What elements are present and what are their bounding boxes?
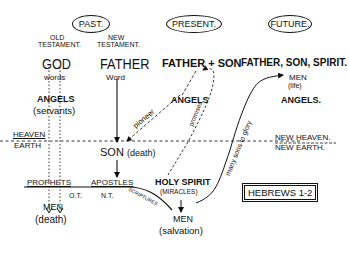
ot-label: O.T. bbox=[69, 192, 82, 199]
men-death-label: MEN bbox=[43, 203, 63, 212]
earth-label: EARTH bbox=[14, 142, 41, 150]
trinity-label: FATHER, SON, SPIRIT. bbox=[241, 58, 347, 68]
era-present-label: PRESENT. bbox=[166, 15, 222, 33]
new-testament-line2: TESTAMENT. bbox=[97, 41, 140, 48]
salvation-label: (salvation) bbox=[159, 226, 203, 236]
prophets-label: PROPHETS bbox=[27, 179, 71, 187]
father-son-label: FATHER + SON bbox=[162, 58, 242, 69]
son-to-angels-line bbox=[181, 71, 196, 97]
holy-spirit-label: HOLY SPIRIT bbox=[155, 178, 211, 187]
son-label: SON (death) bbox=[100, 147, 155, 158]
words-label: words bbox=[44, 74, 65, 82]
servants-label: (servants) bbox=[33, 106, 75, 116]
era-past-label: PAST. bbox=[72, 15, 110, 33]
son-text: SON bbox=[100, 146, 124, 158]
angels-past-label: ANGELS bbox=[37, 95, 75, 104]
heaven-label: HEAVEN bbox=[13, 131, 45, 139]
nt-label: N.T. bbox=[101, 192, 113, 199]
old-testament-line1: OLD bbox=[50, 34, 64, 41]
hebrews-diagram: PAST. PRESENT. FUTURE. OLD TESTAMENT. NE… bbox=[0, 0, 349, 255]
miracles-label: (MIRACLES) bbox=[160, 189, 198, 196]
apostles-label: APOSTLES bbox=[91, 179, 133, 187]
word-label: Word bbox=[106, 74, 125, 82]
son-death-text: (death) bbox=[127, 148, 156, 158]
death-label: (death) bbox=[35, 215, 67, 225]
father-label: FATHER bbox=[100, 56, 149, 71]
reference-box: HEBREWS 1-2 bbox=[244, 185, 316, 200]
new-earth-label: NEW EARTH. bbox=[275, 144, 325, 152]
men-salvation-label: MEN bbox=[173, 215, 193, 224]
life-label: (life) bbox=[288, 82, 302, 89]
new-heaven-label: NEW HEAVEN. bbox=[275, 134, 330, 142]
god-label: GOD bbox=[42, 56, 71, 71]
new-testament-line1: NEW bbox=[108, 34, 124, 41]
men-future-label: MEN bbox=[289, 74, 307, 82]
old-testament-line2: TESTAMENT. bbox=[38, 41, 81, 48]
era-future-label: FUTURE. bbox=[268, 15, 312, 33]
angels-future-label: ANGELS. bbox=[281, 96, 321, 105]
